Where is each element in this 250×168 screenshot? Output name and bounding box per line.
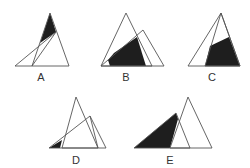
triangle-outline [62, 97, 98, 148]
figure-option-a[interactable]: A [15, 13, 69, 83]
triangle-figures-diagram: ABCDE [0, 0, 250, 168]
figure-option-d[interactable]: D [49, 97, 106, 166]
figure-label: B [122, 71, 129, 83]
triangle-outline [15, 32, 56, 66]
figure-label: A [37, 71, 45, 83]
figure-option-b[interactable]: B [101, 13, 164, 83]
figure-label: E [166, 154, 173, 166]
figure-option-c[interactable]: C [188, 13, 240, 83]
figure-label: D [72, 154, 80, 166]
figure-option-e[interactable]: E [134, 97, 212, 166]
figure-label: C [208, 71, 216, 83]
